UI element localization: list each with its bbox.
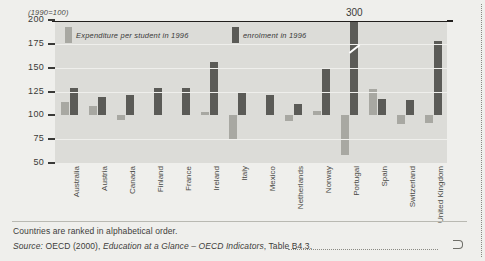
y-tick-50 [48,162,55,164]
bar-enr-austria [98,97,106,115]
bar-exp-ireland [201,112,209,116]
bar-exp-canada [117,115,125,120]
bar-enr-mexico [266,95,274,115]
y-tick-100 [48,114,55,116]
y-tick-label-75: 75 [10,133,44,143]
x-label-portugal: Portugal [352,166,361,196]
bar-exp-netherlands [285,115,293,121]
x-label-australia: Australia [72,166,81,197]
legend-swatch-enrolment-icon [232,27,239,43]
source-prefix: Source: [13,241,43,251]
x-label-ireland: Ireland [212,166,221,190]
legend-label-expenditure: Expenditure per student in 1996 [76,31,189,40]
page-edge-dotted-rule [481,4,482,257]
bar-exp-austria [89,106,97,116]
x-label-spain: Spain [380,166,389,186]
y-tick-label-200: 200 [10,14,44,24]
y-tick-label-125: 125 [10,86,44,96]
x-label-united-kingdom: United Kingdom [436,166,445,223]
bar-exp-united-kingdom [425,115,433,123]
bar-enr-switzerland [406,100,414,115]
bar-exp-switzerland [397,115,405,124]
gridline-150 [55,68,447,69]
x-label-netherlands: Netherlands [296,166,305,209]
footer-note: Countries are ranked in alphabetical ord… [13,226,177,236]
y-tick-label-150: 150 [10,62,44,72]
bar-enr-netherlands [294,104,302,115]
bar-exp-italy [229,115,237,140]
source-title: Education at a Glance – OECD Indicators [103,241,264,251]
bar-enr-canada [126,95,134,115]
x-label-canada: Canada [128,166,137,194]
bar-exp-spain [369,89,377,116]
y-tick-label-50: 50 [10,157,44,167]
x-label-france: France [184,166,193,191]
bar-value-label-portugal: 300 [346,7,363,18]
footer-divider [12,221,467,222]
x-label-mexico: Mexico [268,166,277,191]
gridline-50 [55,163,447,164]
legend-label-enrolment: enrolment in 1996 [243,31,306,40]
footer-source: Source: OECD (2000), Education at a Glan… [13,241,312,251]
x-label-austria: Austria [100,166,109,191]
figure-page: (1990=100) 300 Expenditure per student i… [0,0,485,261]
x-label-norway: Norway [324,166,333,193]
y-tick-label-175: 175 [10,38,44,48]
chart-figure: (1990=100) 300 Expenditure per student i… [10,3,465,217]
gridline-175 [55,44,447,45]
x-label-finland: Finland [156,166,165,192]
gridline-200 [55,20,447,21]
legend-swatch-expenditure-icon [65,27,72,43]
bar-exp-portugal [341,115,349,155]
legend-item-expenditure: Expenditure per student in 1996 [65,27,189,43]
bar-enr-spain [378,99,386,115]
y-tick-200 [48,19,55,21]
source-body-1: OECD (2000), [43,241,103,251]
page-corner-mark-icon [453,240,463,249]
y-tick-75 [48,138,55,140]
gridline-125 [55,92,447,93]
y-tick-150 [48,67,55,69]
y-tick-label-100: 100 [10,109,44,119]
legend-item-enrolment: enrolment in 1996 [232,27,306,43]
bar-exp-norway [313,111,321,116]
bar-exp-australia [61,102,69,115]
y-tick-175 [48,43,55,45]
bar-enr-italy [238,92,246,116]
gridline-75 [55,139,447,140]
footer-dot-leader [288,249,438,250]
x-label-italy: Italy [240,166,249,181]
x-label-switzerland: Switzerland [408,166,417,207]
bar-enr-united-kingdom [434,41,442,115]
y-tick-125 [48,91,55,93]
bar-enr-ireland [210,62,218,115]
